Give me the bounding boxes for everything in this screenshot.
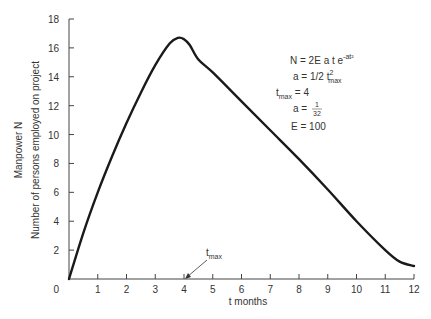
x-tick-label: 7 — [267, 284, 273, 295]
y-tick-label: 0 — [53, 284, 59, 295]
x-axis-ticks: 123456789101112 — [95, 274, 420, 295]
x-tick-label: 9 — [325, 284, 331, 295]
x-tick-label: 8 — [296, 284, 302, 295]
y-tick-label: 12 — [48, 101, 60, 112]
x-tick-label: 1 — [95, 284, 101, 295]
svg-text:a = 1/2 t2max: a = 1/2 t2max — [293, 69, 342, 84]
svg-text:tmax: tmax — [206, 247, 223, 260]
x-tick-label: 6 — [239, 284, 245, 295]
y-tick-label: 16 — [48, 43, 60, 54]
y-axis-title-line2: Number of persons employed on project — [30, 61, 41, 239]
svg-text:E = 100: E = 100 — [291, 121, 326, 132]
y-axis-ticks: 024681012141618 — [48, 14, 74, 295]
tmax-arrow — [187, 260, 207, 277]
y-tick-label: 2 — [53, 245, 59, 256]
svg-text:1: 1 — [315, 101, 319, 108]
axes — [69, 19, 414, 279]
x-tick-label: 5 — [210, 284, 216, 295]
x-tick-label: 10 — [351, 284, 363, 295]
manpower-chart: 024681012141618 123456789101112 t months… — [0, 0, 431, 319]
y-tick-label: 10 — [48, 130, 60, 141]
y-tick-label: 8 — [53, 158, 59, 169]
x-tick-label: 11 — [380, 284, 391, 295]
manpower-curve — [69, 38, 414, 279]
svg-text:32: 32 — [313, 110, 321, 117]
svg-text:N = 2E a t e-at²: N = 2E a t e-at² — [290, 53, 354, 66]
svg-text:tmax = 4: tmax = 4 — [276, 87, 309, 100]
y-axis-title-line1: Manpower N — [13, 122, 24, 179]
x-tick-label: 2 — [124, 284, 130, 295]
y-tick-label: 18 — [48, 14, 60, 25]
svg-text:a =: a = — [293, 103, 307, 114]
x-tick-label: 4 — [181, 284, 187, 295]
x-tick-label: 12 — [408, 284, 420, 295]
y-tick-label: 14 — [48, 72, 60, 83]
tmax-annotation: tmax — [185, 247, 223, 279]
x-axis-title: t months — [229, 296, 267, 307]
equation-block: N = 2E a t e-at² a = 1/2 t2max tmax = 4 … — [276, 53, 354, 132]
y-tick-label: 6 — [53, 187, 59, 198]
y-tick-label: 4 — [53, 216, 59, 227]
x-tick-label: 3 — [152, 284, 158, 295]
